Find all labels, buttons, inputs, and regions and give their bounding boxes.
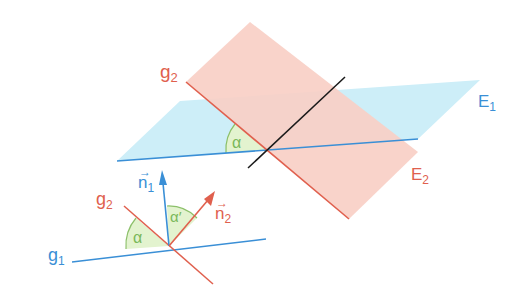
label-alpha-top: α — [232, 134, 241, 151]
n2-vector-bar: → — [216, 196, 228, 210]
label-alpha-prime: α′ — [170, 208, 182, 225]
label-g2-top: g2 — [160, 61, 178, 85]
label-alpha-bottom: α — [133, 229, 142, 246]
vector-n1-arrowhead — [159, 170, 167, 185]
planes-angle-diagram: g2 E1 E2 α n1 → n2 → g2 g1 α α′ — [0, 0, 521, 304]
label-e1: E1 — [478, 92, 496, 114]
n1-vector-bar: → — [139, 165, 151, 179]
label-g2-bottom: g2 — [96, 189, 113, 212]
label-g1: g1 — [48, 245, 65, 268]
diagram-canvas: g2 E1 E2 α n1 → n2 → g2 g1 α α′ — [0, 0, 521, 304]
label-e2: E2 — [411, 165, 429, 187]
